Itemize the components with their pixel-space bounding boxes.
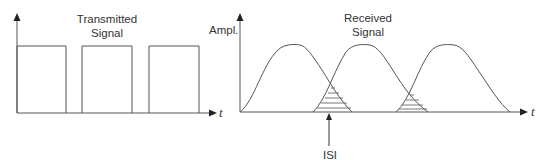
right-x-axis-arrow-icon	[520, 109, 528, 116]
received-title-line1: Received	[344, 12, 392, 24]
right-x-axis-label: t	[531, 104, 535, 119]
pulse-3	[149, 46, 199, 113]
pulse-2	[82, 46, 132, 113]
received-pulse-3	[396, 45, 510, 112]
transmitted-signal-plot: t Transmitted Signal	[14, 13, 224, 120]
left-x-axis-label: t	[219, 105, 223, 120]
transmitted-title-line1: Transmitted	[77, 13, 137, 25]
pulse-1	[17, 46, 66, 113]
transmitted-title-line2: Signal	[91, 27, 123, 39]
received-title-line2: Signal	[352, 26, 384, 38]
left-x-axis-arrow-icon	[209, 110, 217, 117]
left-y-axis-arrow-icon	[14, 13, 21, 21]
received-pulse-2	[313, 45, 428, 112]
amplitude-label: Ampl.	[209, 24, 238, 36]
isi-diagram: t Transmitted Signal t Ampl.	[0, 0, 546, 160]
received-pulse-1	[240, 45, 352, 112]
right-y-axis-arrow-icon	[237, 13, 244, 21]
isi-arrow-head-icon	[326, 113, 332, 120]
isi-overlap-region-2	[399, 95, 427, 109]
received-signal-plot: t Ampl. ISI Received Signal	[209, 12, 535, 160]
isi-label: ISI	[323, 149, 337, 160]
